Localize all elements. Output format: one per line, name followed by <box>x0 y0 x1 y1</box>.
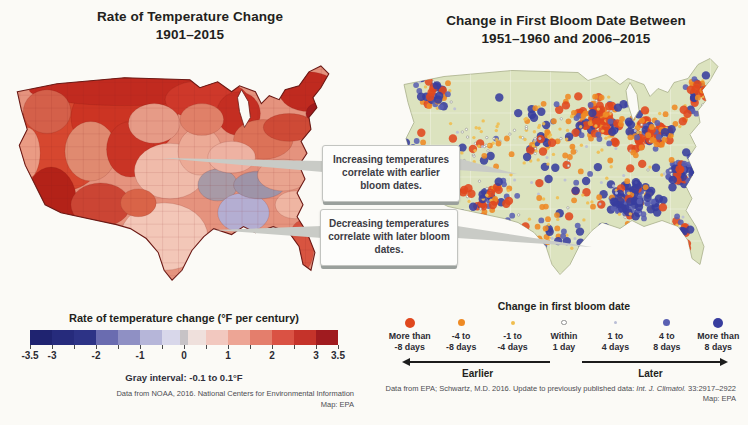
colorbar-segment <box>52 330 74 345</box>
bloom-class-item: Within1 day <box>538 316 589 353</box>
colorbar-tickmark <box>118 345 119 349</box>
colorbar-segment <box>316 330 338 345</box>
bloom-legend-title: Change in first bloom date <box>384 300 744 312</box>
epa-climate-infographic: Rate of Temperature Change 1901–2015 Cha… <box>0 0 748 425</box>
colorbar-gray-interval <box>180 330 189 345</box>
colorbar-tick-label: 0 <box>181 350 187 361</box>
temperature-map-svg <box>2 56 358 306</box>
colorbar-tick-label: 3 <box>313 350 319 361</box>
bloom-class-item: -4 to-8 days <box>435 316 486 353</box>
bloom-class-label: 4 to8 days <box>641 331 692 353</box>
colorbar-tick-label: -3 <box>48 350 57 361</box>
bloom-map-title: Change in First Bloom Date Between 1951–… <box>396 12 736 47</box>
bloom-map-title-line2: 1951–1960 and 2006–2015 <box>396 30 736 48</box>
callout-decreasing-temperatures: Decreasing temperatures correlate with l… <box>320 209 458 266</box>
temperature-legend: Rate of temperature change (°F per centu… <box>8 312 360 410</box>
bloom-class-item: 1 to4 days <box>590 316 641 353</box>
temperature-map-title-line2: 1901–2015 <box>28 26 352 44</box>
colorbar-segment <box>140 330 162 345</box>
colorbar-tickmark <box>316 345 317 349</box>
bloom-class-dot-icon <box>511 321 515 325</box>
colorbar-tickmark <box>206 345 207 349</box>
colorbar-tickmark <box>162 345 163 349</box>
earlier-arrow <box>409 361 549 363</box>
colorbar-tickmark <box>96 345 97 349</box>
colorbar-segment <box>250 330 272 345</box>
bloom-class-label: -1 to-4 days <box>487 331 538 353</box>
earlier-label: Earlier <box>462 368 493 379</box>
bloom-class-dot-icon <box>713 318 723 328</box>
callout-increasing-temperatures: Increasing temperatures correlate with e… <box>322 145 460 202</box>
bloom-class-dot-icon <box>405 318 415 328</box>
colorbar-tick-label: -1 <box>136 350 145 361</box>
bloom-class-item: More than8 days <box>693 316 744 353</box>
colorbar-tickmark <box>30 345 31 349</box>
colorbar-tickmark <box>294 345 295 349</box>
bloom-class-label: More than-8 days <box>384 331 435 353</box>
colorbar-segment <box>228 330 250 345</box>
colorbar-tickmark <box>338 345 339 349</box>
bloom-class-item: 4 to8 days <box>641 316 692 353</box>
colorbar-segment <box>272 330 294 345</box>
earlier-arrow-head-icon <box>402 358 410 366</box>
bloom-legend: Change in first bloom date More than-8 d… <box>384 300 744 405</box>
colorbar-tickmark <box>228 345 229 349</box>
bloom-map-title-line1: Change in First Bloom Date Between <box>396 12 736 30</box>
colorbar-tickmark <box>272 345 273 349</box>
colorbar-segment <box>294 330 316 345</box>
colorbar-segment <box>96 330 118 345</box>
temperature-colorbar <box>30 330 338 345</box>
later-label: Later <box>638 368 662 379</box>
colorbar-segment <box>118 330 140 345</box>
colorbar-tickmark <box>52 345 53 349</box>
later-arrow-head-icon <box>720 358 728 366</box>
bloom-class-label: 1 to4 days <box>590 331 641 353</box>
bloom-class-row: More than-8 days-4 to-8 days-1 to-4 days… <box>384 316 744 353</box>
temperature-source-line2: Map: EPA <box>8 400 354 411</box>
later-arrow <box>582 361 721 363</box>
temperature-source-line1: Data from NOAA, 2016. National Centers f… <box>8 389 354 400</box>
colorbar-tickmark <box>250 345 251 349</box>
bloom-class-dot-icon <box>663 319 670 326</box>
bloom-class-dot-icon <box>561 320 566 325</box>
colorbar-tickmark <box>74 345 75 349</box>
bloom-source-line2: Map: EPA <box>384 394 736 405</box>
colorbar-tick-label: -3.5 <box>21 350 38 361</box>
bloom-source-note: Data from EPA; Schwartz, M.D. 2016. Upda… <box>384 384 744 405</box>
temperature-map-title: Rate of Temperature Change 1901–2015 <box>28 8 352 43</box>
bloom-class-label: Within1 day <box>538 331 589 353</box>
bloom-class-dot-icon <box>458 319 465 326</box>
colorbar-tick-label: 3.5 <box>331 350 345 361</box>
temperature-source-note: Data from NOAA, 2016. National Centers f… <box>8 389 360 410</box>
temperature-map-title-line1: Rate of Temperature Change <box>28 8 352 26</box>
colorbar-segment <box>30 330 52 345</box>
bloom-direction-arrows: Earlier Later <box>384 356 744 382</box>
colorbar-segment <box>74 330 96 345</box>
colorbar-tickmark <box>140 345 141 349</box>
colorbar-tick-label: 1 <box>225 350 231 361</box>
bloom-class-label: More than8 days <box>693 331 744 353</box>
bloom-class-dot-icon <box>614 321 618 325</box>
colorbar-tickmark <box>184 345 185 349</box>
bloom-class-item: More than-8 days <box>384 316 435 353</box>
bloom-source-line1: Data from EPA; Schwartz, M.D. 2016. Upda… <box>384 384 736 395</box>
colorbar-tick-label: 2 <box>269 350 275 361</box>
gray-interval-note: Gray interval: -0.1 to 0.1°F <box>8 372 360 383</box>
bloom-class-item: -1 to-4 days <box>487 316 538 353</box>
colorbar-tick-label: -2 <box>92 350 101 361</box>
bloom-class-label: -4 to-8 days <box>435 331 486 353</box>
temperature-change-map <box>2 56 360 308</box>
colorbar-ticks: -3.5-3-2-101233.5 <box>30 345 338 371</box>
colorbar-segment <box>206 330 228 345</box>
temperature-legend-title: Rate of temperature change (°F per centu… <box>8 312 360 324</box>
